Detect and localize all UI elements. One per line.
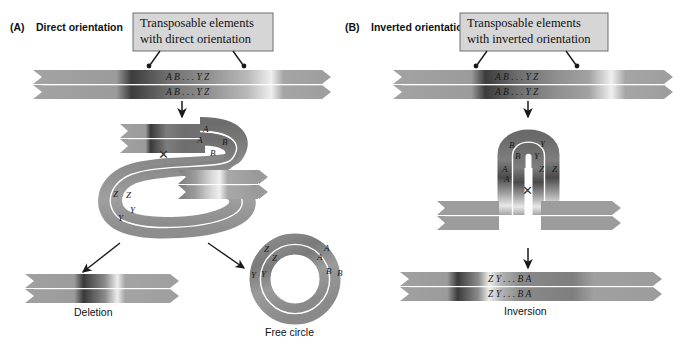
loop-label-a2: A bbox=[196, 135, 203, 145]
duplex-a-gap bbox=[42, 84, 322, 85]
hairpin-base-right-gap bbox=[541, 215, 612, 216]
hairpin-label-a1: A bbox=[501, 164, 508, 174]
loop-arm-right-1 bbox=[178, 170, 258, 184]
loop-arm-right-2 bbox=[178, 185, 258, 199]
circle-label-a1: A bbox=[323, 243, 330, 253]
circle-label-a2: A bbox=[316, 252, 323, 262]
callout-a-line1: Transposable elements bbox=[140, 16, 254, 30]
loop-label-a1: A bbox=[202, 124, 209, 134]
callout-a-line2: with direct orientation bbox=[140, 32, 252, 46]
circle-label-b1: B bbox=[326, 266, 332, 276]
hairpin-label-b1: B bbox=[509, 140, 515, 150]
inversion-upper-seq: Z Y . . . B A bbox=[488, 274, 532, 284]
callout-a-dot-right bbox=[242, 64, 247, 69]
deletion-strand-upper bbox=[25, 274, 179, 288]
hairpin-label-a2: A bbox=[503, 174, 510, 184]
hairpin-base-left-1 bbox=[437, 201, 499, 215]
panel-b-title: Inverted orientation bbox=[371, 21, 469, 33]
crossover-mark-b: ✕ bbox=[522, 183, 533, 198]
callout-a-dot-left bbox=[147, 64, 152, 69]
deletion-duplex-gap bbox=[34, 288, 170, 289]
inversion-label: Inversion bbox=[504, 305, 547, 317]
strand-b-upper-seq: A B . . . Y Z bbox=[494, 72, 539, 82]
panel-a-tag: (A) bbox=[10, 21, 25, 33]
loop-arm-right-gap bbox=[186, 184, 258, 185]
hairpin-base-right-2 bbox=[541, 216, 621, 230]
callout-b-line2: with inverted orientation bbox=[467, 32, 591, 46]
deletion-strand-lower bbox=[25, 289, 179, 303]
hairpin-base-left-gap bbox=[445, 215, 499, 216]
loop-arm-upper-gap bbox=[128, 138, 205, 139]
hairpin-base-right-1 bbox=[541, 201, 621, 215]
inversion-duplex-gap bbox=[409, 286, 653, 287]
loop-label-b2: B bbox=[210, 148, 216, 158]
circle-label-b2: B bbox=[337, 268, 343, 278]
hairpin-label-b2: B bbox=[515, 151, 521, 161]
figure-canvas: (A) Direct orientation Transposable elem… bbox=[0, 0, 683, 352]
free-circle-label: Free circle bbox=[265, 326, 314, 338]
strand-b-lower-seq: A B . . . Y Z bbox=[494, 87, 539, 97]
loop-arm-upper-1 bbox=[120, 124, 205, 138]
crossover-mark-a: ✕ bbox=[158, 147, 169, 162]
panel-a-title: Direct orientation bbox=[36, 21, 123, 33]
duplex-b-gap bbox=[402, 84, 664, 85]
strand-a-lower-seq: A B . . . Y Z bbox=[165, 87, 210, 97]
panel-b-tag: (B) bbox=[345, 21, 360, 33]
loop-label-b1: B bbox=[222, 137, 228, 147]
inversion-lower-seq: Z Y . . . B A bbox=[488, 289, 532, 299]
callout-b-dot-right bbox=[575, 64, 580, 69]
deletion-label: Deletion bbox=[74, 306, 113, 318]
hairpin-base-left-2 bbox=[437, 216, 499, 230]
strand-a-upper-seq: A B . . . Y Z bbox=[165, 72, 210, 82]
panel-a-parent-duplex: A B . . . Y Z A B . . . Y Z bbox=[33, 70, 331, 99]
transposable-element-recombination-diagram: (A) Direct orientation Transposable elem… bbox=[0, 0, 683, 352]
callout-b-line1: Transposable elements bbox=[467, 16, 581, 30]
callout-b-dot-left bbox=[474, 64, 479, 69]
panel-b-parent-duplex: A B . . . Y Z A B . . . Y Z bbox=[393, 70, 673, 99]
